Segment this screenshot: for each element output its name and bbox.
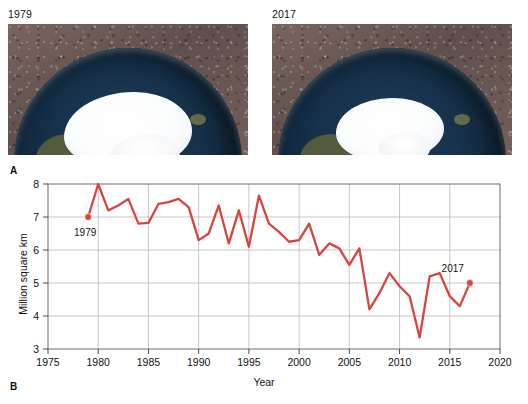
data-point-marker-2017 xyxy=(466,280,473,287)
x-axis-tick-label: 2010 xyxy=(388,356,412,368)
satellite-image-2017-block: 2017 xyxy=(272,8,512,155)
satellite-image-1979-block: 1979 xyxy=(8,8,248,155)
x-axis-tick-label: 1985 xyxy=(137,356,161,368)
satellite-image-1979-year-label: 1979 xyxy=(8,8,248,21)
sea-ice-extension-2017 xyxy=(378,132,430,155)
x-axis-tick-label: 2020 xyxy=(488,356,512,368)
x-axis-title: Year xyxy=(0,376,528,388)
y-axis-tick-label: 7 xyxy=(33,211,39,223)
data-point-marker-1979 xyxy=(85,214,92,221)
y-axis-tick-label: 5 xyxy=(33,277,39,289)
landmass-siberia-icon xyxy=(454,114,470,125)
landmass-siberia-icon xyxy=(190,114,206,125)
sea-ice-extent-line xyxy=(88,184,470,337)
satellite-image-2017-year-label: 2017 xyxy=(272,8,512,21)
x-axis-tick-label: 1995 xyxy=(237,356,261,368)
x-axis-tick-label: 1990 xyxy=(187,356,211,368)
x-axis-tick-label: 1980 xyxy=(87,356,111,368)
annotation-label-2017: 2017 xyxy=(442,263,465,274)
satellite-image-2017 xyxy=(272,24,512,155)
y-axis-tick-label: 6 xyxy=(33,244,39,256)
y-axis-tick-label: 3 xyxy=(33,343,39,355)
landmass-alaska-icon xyxy=(36,134,88,155)
sea-ice-cap-1979 xyxy=(64,92,192,155)
satellite-image-1979 xyxy=(8,24,248,155)
chart-frame xyxy=(48,184,500,349)
x-axis-tick-label: 2005 xyxy=(338,356,362,368)
x-axis-tick-label: 2015 xyxy=(438,356,462,368)
chart-gridlines xyxy=(48,184,500,349)
panel-b-chart: Million square km 3456781975198019851990… xyxy=(0,176,528,404)
sea-ice-extension-1979 xyxy=(110,134,180,155)
panel-a-satellite-images: 1979 2017 xyxy=(0,0,528,176)
sea-ice-extent-chart: Million square km 3456781975198019851990… xyxy=(0,176,528,404)
panel-label-a: A xyxy=(10,165,17,176)
arctic-sea-ice-figure: 1979 2017 xyxy=(0,0,528,404)
sea-ice-cap-2017 xyxy=(336,98,444,155)
x-axis-tick-label: 1975 xyxy=(36,356,60,368)
landmass-alaska-icon xyxy=(300,134,352,155)
x-axis-tick-label: 2000 xyxy=(287,356,311,368)
annotation-label-1979: 1979 xyxy=(74,227,97,238)
chart-plot-area: 3456781975198019851990199520002005201020… xyxy=(0,176,528,376)
y-axis-tick-label: 8 xyxy=(33,178,39,190)
panel-label-b: B xyxy=(10,381,17,392)
y-axis-tick-label: 4 xyxy=(33,310,39,322)
